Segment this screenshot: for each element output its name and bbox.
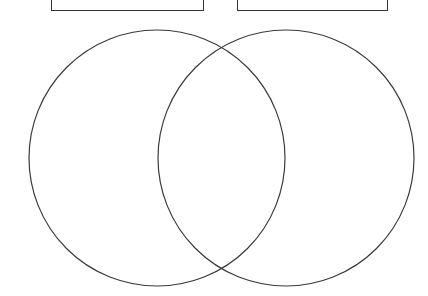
venn-diagram-graphic xyxy=(0,0,428,296)
right-only-region[interactable] xyxy=(273,98,393,218)
venn-diagram-worksheet xyxy=(0,0,428,296)
left-only-region[interactable] xyxy=(50,98,170,218)
overlap-region[interactable] xyxy=(190,48,254,268)
